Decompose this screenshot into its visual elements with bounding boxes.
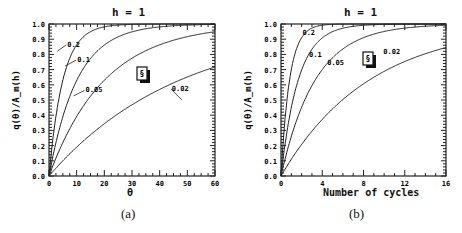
svg-text:0.4: 0.4 xyxy=(264,112,277,120)
svg-text:1.0: 1.0 xyxy=(264,21,277,29)
chart-panel-a: h = 1 0.00.10.20.30.40.50.60.70.80.91.00… xyxy=(0,0,231,233)
svg-text:0.8: 0.8 xyxy=(264,51,277,59)
svg-text:q(θ)/A_m(h): q(θ)/A_m(h) xyxy=(11,70,21,130)
svg-text:0.7: 0.7 xyxy=(32,67,45,75)
svg-text:0.2: 0.2 xyxy=(67,41,80,49)
svg-text:0: 0 xyxy=(47,180,51,188)
svg-text:16: 16 xyxy=(442,180,450,188)
svg-text:0.8: 0.8 xyxy=(32,51,45,59)
svg-text:0.0: 0.0 xyxy=(32,173,45,181)
svg-text:0.02: 0.02 xyxy=(172,85,189,93)
svg-text:50: 50 xyxy=(183,180,191,188)
svg-text:0.5: 0.5 xyxy=(264,97,277,105)
svg-text:10: 10 xyxy=(72,180,80,188)
svg-text:0.02: 0.02 xyxy=(383,48,400,56)
svg-text:60: 60 xyxy=(211,180,219,188)
svg-text:0.05: 0.05 xyxy=(86,86,103,94)
x-axis-label-b: Number of cycles xyxy=(323,187,419,198)
x-axis-label-a: θ xyxy=(127,187,133,198)
svg-text:0.3: 0.3 xyxy=(264,127,277,135)
svg-text:0.2: 0.2 xyxy=(32,143,45,151)
svg-text:0.1: 0.1 xyxy=(32,158,45,166)
svg-text:§: § xyxy=(140,70,145,79)
svg-text:0.1: 0.1 xyxy=(264,158,277,166)
svg-text:0.3: 0.3 xyxy=(32,127,45,135)
svg-text:0.2: 0.2 xyxy=(302,29,315,37)
svg-text:0.7: 0.7 xyxy=(264,67,277,75)
svg-text:20: 20 xyxy=(100,180,108,188)
svg-text:q(θ)/A_m(h): q(θ)/A_m(h) xyxy=(243,70,253,130)
svg-text:0.6: 0.6 xyxy=(264,82,277,90)
chart-panel-b: h = 1 0.00.10.20.30.40.50.60.70.80.91.00… xyxy=(231,0,462,233)
svg-text:0.1: 0.1 xyxy=(309,51,322,59)
caption-a: (a) xyxy=(121,206,135,222)
svg-text:40: 40 xyxy=(155,180,163,188)
svg-text:0.05: 0.05 xyxy=(327,59,344,67)
svg-text:0.9: 0.9 xyxy=(264,36,277,44)
svg-text:0.6: 0.6 xyxy=(32,82,45,90)
svg-text:0.9: 0.9 xyxy=(32,36,45,44)
svg-text:1.0: 1.0 xyxy=(32,21,45,29)
plot-area-b: 0.00.10.20.30.40.50.60.70.80.91.00481216… xyxy=(231,0,462,233)
svg-text:0: 0 xyxy=(279,180,283,188)
svg-text:§: § xyxy=(366,55,371,64)
svg-text:0.1: 0.1 xyxy=(77,56,90,64)
svg-text:0.2: 0.2 xyxy=(264,143,277,151)
svg-text:0.4: 0.4 xyxy=(32,112,45,120)
svg-text:0.0: 0.0 xyxy=(264,173,277,181)
plot-area-a: 0.00.10.20.30.40.50.60.70.80.91.00102030… xyxy=(0,0,231,233)
caption-b: (b) xyxy=(349,206,364,222)
svg-text:0.5: 0.5 xyxy=(32,97,45,105)
